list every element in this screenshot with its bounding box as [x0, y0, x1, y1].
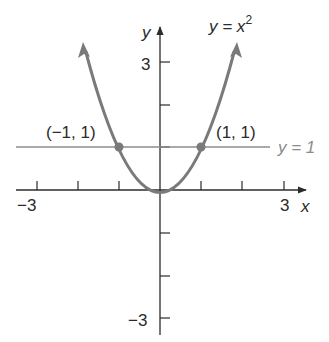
axes	[16, 27, 306, 335]
point-label-1-1: (1, 1)	[216, 123, 256, 142]
parabola-right-arrow-icon	[230, 42, 242, 58]
point-1-1	[197, 143, 206, 152]
parabola-label: y = x2	[208, 13, 252, 36]
x-axis-label: x	[300, 197, 310, 216]
point-label-neg1-1: (−1, 1)	[46, 123, 96, 142]
hline-label: y = 1	[277, 138, 315, 157]
y-tick-label-neg3: −3	[128, 311, 147, 330]
point-neg1-1	[115, 143, 124, 152]
y-axis-label: y	[141, 23, 152, 42]
y-tick-label-3: 3	[141, 55, 150, 74]
parabola-left-arrow-icon	[78, 42, 90, 58]
x-tick-label-neg3: −3	[17, 196, 36, 215]
x-tick-label-3: 3	[280, 196, 289, 215]
parabola-chart: y x 3 −3 −3 3 y = x2 y = 1 (−1, 1) (1, 1…	[0, 0, 329, 342]
